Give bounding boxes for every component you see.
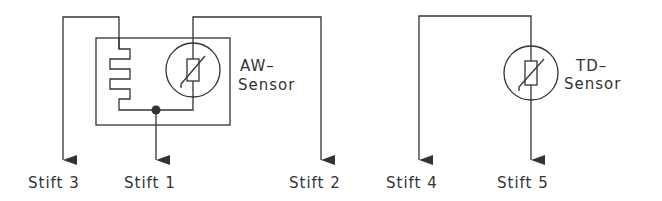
wire-stift-4 (419, 16, 531, 160)
heater-element-icon (110, 38, 193, 110)
td-sensor-label-line2: Sensor (564, 75, 621, 93)
td-sensor-label-line1: TD– (575, 57, 607, 75)
pin-label-stift-1: Stift 1 (124, 174, 176, 192)
aw-sensor-housing (96, 38, 230, 125)
junction-dot (152, 106, 161, 115)
aw-sensor-label-line2: Sensor (238, 76, 295, 94)
pin-label-stift-4: Stift 4 (386, 174, 438, 192)
pin-label-stift-5: Stift 5 (497, 174, 549, 192)
pin-label-stift-2: Stift 2 (289, 174, 341, 192)
aw-sensor-label-line1: AW– (240, 57, 275, 75)
wiring-diagram: AW– Sensor TD– Sensor Stift 3 Stift 1 St… (0, 0, 662, 201)
pin-label-stift-3: Stift 3 (28, 174, 80, 192)
